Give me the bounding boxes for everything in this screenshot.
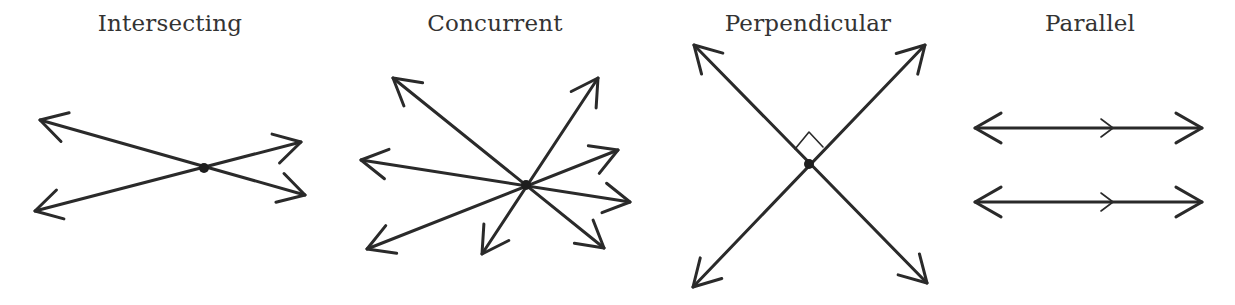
line (35, 142, 301, 211)
line (367, 150, 618, 249)
line (361, 160, 630, 202)
parallel-lines-diagram (975, 113, 1202, 217)
intersection-point (804, 159, 814, 169)
intersecting-lines-diagram (35, 113, 305, 219)
line (40, 120, 305, 195)
concurrent-lines-diagram (361, 78, 630, 254)
perpendicular-lines-diagram (693, 45, 927, 287)
right-angle-marker (795, 132, 823, 149)
intersection-point (199, 163, 209, 173)
intersection-point (521, 180, 531, 190)
line (393, 78, 604, 248)
diagram-canvas (0, 0, 1235, 305)
